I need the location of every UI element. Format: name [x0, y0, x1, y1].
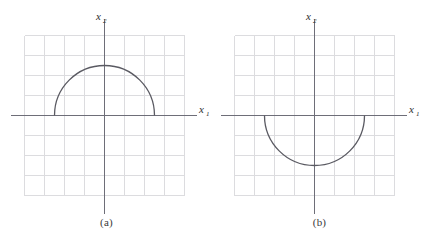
y-axis-label-text-a: x — [95, 10, 101, 22]
y-axis-label-subscript-b: 2 — [313, 17, 317, 25]
panel-caption-a: (a) — [0, 216, 213, 228]
x-axis-label-subscript-a: 1 — [206, 110, 210, 118]
plot-svg-a: x 2 x 1 — [0, 0, 213, 241]
x-axis-label-b: x 1 — [408, 103, 420, 118]
y-axis-label-subscript-a: 2 — [103, 17, 107, 25]
figure-container: x 2 x 1 (a) — [0, 0, 426, 241]
x-axis-label-a: x 1 — [198, 103, 210, 118]
plot-svg-b: x 2 x 1 — [213, 0, 426, 241]
x-axis-label-subscript-b: 1 — [416, 110, 420, 118]
y-axis-label-text-b: x — [305, 10, 311, 22]
y-axis-label-a: x 2 — [95, 10, 107, 25]
x-axis-label-text-b: x — [408, 103, 414, 115]
panel-caption-b: (b) — [213, 216, 426, 228]
plot-panel-a: x 2 x 1 (a) — [0, 0, 213, 241]
x-axis-label-text-a: x — [198, 103, 204, 115]
y-axis-label-b: x 2 — [305, 10, 317, 25]
plot-panel-b: x 2 x 1 (b) — [213, 0, 426, 241]
